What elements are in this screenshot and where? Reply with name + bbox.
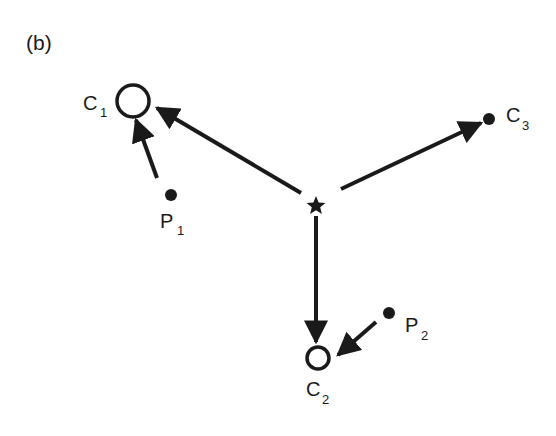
label-p1: P 1 — [160, 210, 184, 238]
svg-text:1: 1 — [100, 105, 107, 120]
star-icon — [307, 196, 326, 214]
svg-text:C: C — [506, 104, 520, 126]
svg-text:2: 2 — [421, 328, 428, 343]
edge-star-to-c3 — [341, 123, 481, 189]
edge-p2-to-c2 — [338, 322, 376, 355]
svg-text:2: 2 — [322, 392, 329, 407]
svg-text:1: 1 — [177, 223, 184, 238]
p1-dot — [165, 189, 177, 201]
label-c3: C 3 — [506, 104, 529, 133]
svg-text:P: P — [405, 314, 418, 336]
svg-text:3: 3 — [522, 118, 529, 133]
c3-dot — [483, 113, 495, 125]
p2-dot — [383, 307, 395, 319]
label-p2: P 2 — [405, 314, 428, 343]
svg-text:P: P — [160, 210, 173, 232]
label-c1: C 1 — [83, 92, 107, 120]
svg-text:C: C — [306, 378, 320, 400]
diagram-canvas: (b) C 1 C 3 P 1 P 2 C 2 — [0, 0, 556, 436]
c1-open-circle — [117, 85, 149, 117]
edge-p1-to-c1 — [136, 120, 157, 178]
label-c2: C 2 — [306, 378, 329, 407]
svg-text:C: C — [83, 92, 97, 114]
edge-star-to-c1 — [157, 108, 301, 193]
c2-open-circle — [307, 347, 329, 369]
panel-label: (b) — [26, 31, 52, 54]
